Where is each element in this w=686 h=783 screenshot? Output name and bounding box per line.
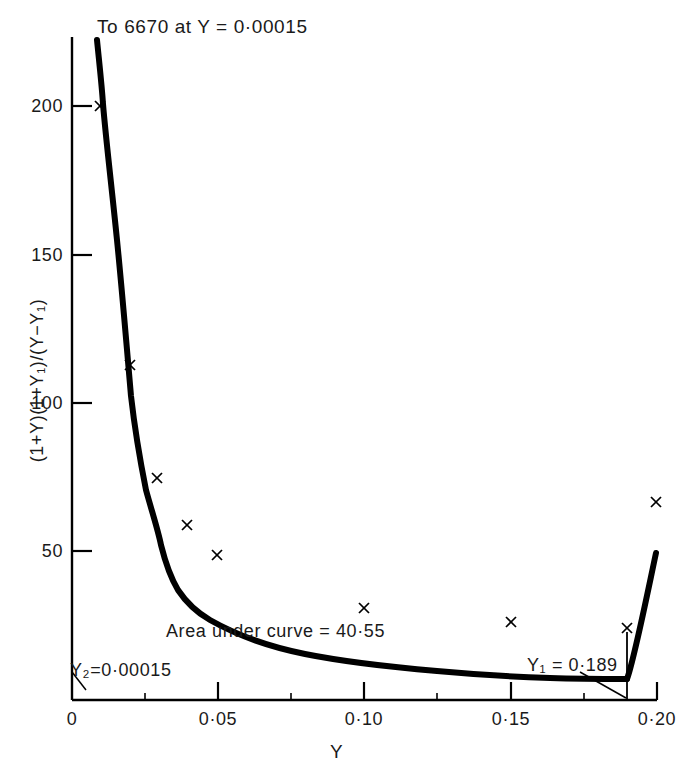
- annotation-area-under-curve: Area under curve = 40·55: [166, 621, 385, 642]
- curve-upturn-branch: [627, 553, 656, 679]
- y-tick-label-150: 150: [3, 245, 63, 266]
- data-point-marker: [506, 617, 516, 627]
- data-point-marker: [651, 497, 661, 507]
- curve-main-branch: [97, 40, 627, 679]
- y-axis-ticks: [72, 106, 92, 551]
- data-point-markers: [95, 101, 661, 633]
- annotation-y1-value: Y₁ = 0·189: [527, 655, 618, 676]
- x-tick-label-005: 0·05: [183, 709, 253, 730]
- y-axis-title: (1+Y)(1+Y₁)/(Y−Y₁): [27, 266, 48, 496]
- x-axis-title: Y: [330, 741, 343, 763]
- figure-container: To 6670 at Y = 0·00015 Area under curve …: [0, 0, 686, 783]
- data-point-marker: [152, 473, 162, 483]
- x-tick-label-0: 0: [37, 709, 107, 730]
- data-point-marker: [622, 623, 632, 633]
- data-point-marker: [359, 603, 369, 613]
- x-tick-label-015: 0·15: [476, 709, 546, 730]
- data-point-marker: [182, 520, 192, 530]
- annotation-to-6670: To 6670 at Y = 0·00015: [97, 16, 308, 38]
- y-tick-label-50: 50: [3, 541, 63, 562]
- y-tick-label-200: 200: [3, 96, 63, 117]
- data-point-marker: [212, 550, 222, 560]
- annotation-y2-value: Y₂=0·00015: [70, 660, 172, 681]
- x-tick-label-020: 0·20: [622, 709, 686, 730]
- x-tick-label-010: 0·10: [329, 709, 399, 730]
